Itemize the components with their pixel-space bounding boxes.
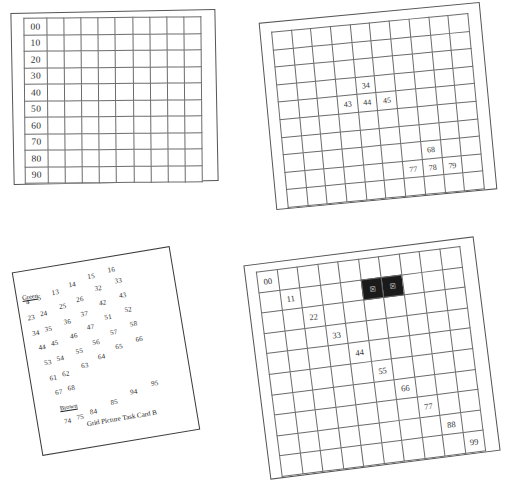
- grid-cell: [378, 109, 399, 128]
- grid-cell: [350, 23, 371, 42]
- grid-cell: [383, 161, 404, 180]
- grid-cell: [300, 285, 323, 308]
- grid-cell: [341, 446, 364, 469]
- grid-cell: [326, 184, 347, 203]
- grid-cell: [277, 267, 300, 290]
- grid-cell: [414, 70, 435, 89]
- grid-cell: [375, 74, 396, 93]
- grid-row-label: 90: [25, 167, 48, 184]
- grid-cell: [442, 433, 465, 456]
- grid-cell: [65, 150, 82, 167]
- grid-cell: [319, 114, 340, 133]
- grid-cell: [351, 361, 374, 384]
- grid-cell: [151, 133, 168, 150]
- grid-cell: [343, 300, 366, 323]
- grid-cell: [116, 100, 133, 117]
- grid-cell: [342, 147, 363, 166]
- grid-cell: [321, 132, 342, 151]
- grid-cell: [360, 128, 381, 147]
- grid-cell: [98, 34, 115, 51]
- grid-row-label: 60: [25, 117, 48, 134]
- grid-cell: [65, 117, 82, 134]
- grid-cell: [310, 367, 333, 390]
- grid-cell: [297, 430, 320, 453]
- grid-row: 60: [25, 116, 202, 134]
- grid-cell: [305, 326, 328, 349]
- grid-cell: [442, 267, 465, 290]
- grid-cell: [407, 313, 430, 336]
- grid-cell: [452, 349, 475, 372]
- scribble-mark-icon: ☒: [389, 283, 395, 292]
- grid-cell: [381, 441, 404, 464]
- grid-cell: [409, 17, 430, 36]
- card-number: 75: [76, 413, 85, 422]
- grid-cell-numbered: 68: [420, 140, 441, 159]
- grid-cell: [362, 146, 383, 165]
- grid-cell: [132, 17, 149, 34]
- grid-cell: [167, 83, 184, 100]
- grid-cell: [411, 35, 432, 54]
- grid-cell: [366, 318, 389, 341]
- grid-cell: [320, 448, 343, 471]
- grid-cell: [363, 163, 384, 182]
- grid-cell-numbered: 99: [463, 430, 486, 453]
- grid-cell: [48, 117, 65, 134]
- card-number: 62: [62, 369, 71, 378]
- grid-cell-numbered: 78: [422, 157, 443, 176]
- grid-cell: [82, 67, 99, 84]
- grid-cell-numbered: 34: [355, 75, 376, 94]
- grid-cell: [65, 100, 82, 117]
- grid-cell: [429, 331, 452, 354]
- grid-cell: [358, 257, 381, 280]
- grid-cell: [98, 51, 115, 68]
- grid-cell: [404, 292, 427, 315]
- grid-cell-numbered: 00: [256, 270, 279, 293]
- grid-cell: [168, 149, 185, 166]
- card-number: 44: [38, 343, 47, 352]
- grid-cell: [445, 287, 468, 310]
- grid-cell: [391, 37, 412, 56]
- grid-cell: [437, 103, 458, 122]
- diagonal-doubles-grid-panel: 0011☒☒2233445566778899: [252, 244, 502, 482]
- grid-cell-numbered: 33: [325, 323, 348, 346]
- grid-cell: [151, 166, 168, 183]
- grid-cell: [133, 116, 150, 133]
- grid-cell: [386, 315, 409, 338]
- grid-cell: [356, 402, 379, 425]
- grid-cell: [455, 369, 478, 392]
- grid-row-label: 50: [25, 101, 48, 118]
- grid-cell: [116, 149, 133, 166]
- grid-cell: [267, 351, 290, 374]
- grid-cell: [358, 423, 381, 446]
- grid-cell: [419, 249, 442, 272]
- grid-cell: [399, 124, 420, 143]
- grid-cell: [117, 166, 134, 183]
- grid-cell: [381, 144, 402, 163]
- grid-cell: [168, 165, 185, 182]
- grid-cell: [82, 133, 99, 150]
- grid-cell: [371, 39, 392, 58]
- grid-cell: [48, 100, 65, 117]
- card-number: 66: [135, 335, 144, 344]
- grid-cell: [134, 149, 151, 166]
- grid-cell-numbered: 44: [348, 341, 371, 364]
- grid-cell: [133, 34, 150, 51]
- grid-cell: [393, 54, 414, 73]
- blank-hundred-grid: 00102030405060708090: [23, 16, 202, 184]
- grid-cell: [340, 280, 363, 303]
- grid-cell: [295, 63, 316, 82]
- grid-cell: [358, 110, 379, 129]
- grid-cell: [380, 126, 401, 145]
- grid-cell: [335, 77, 356, 96]
- grid-cell: [313, 44, 334, 63]
- grid-cell: [184, 50, 201, 67]
- card-number: 94: [130, 387, 139, 396]
- grid-cell: [402, 438, 425, 461]
- grid-cell: [320, 282, 343, 305]
- grid-cell: [394, 72, 415, 91]
- grid-cell-numbered: 55: [371, 359, 394, 382]
- grid-cell: [82, 100, 99, 117]
- grid-row: 50: [25, 99, 202, 117]
- grid-cell: [272, 392, 295, 415]
- grid-cell: [432, 351, 455, 374]
